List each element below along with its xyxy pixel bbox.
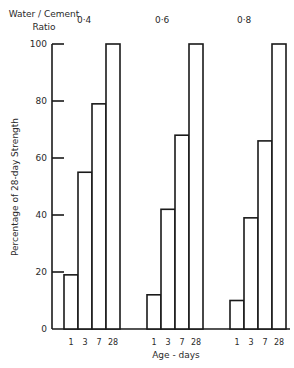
legend-title-line-2: Ratio bbox=[32, 22, 56, 32]
group-labels: 0·40·60·8 bbox=[77, 15, 252, 25]
group-label: 0·8 bbox=[237, 15, 252, 25]
x-tick-label: 7 bbox=[179, 338, 184, 347]
legend-title-line-1: Water / Cement bbox=[9, 9, 80, 19]
x-tick-label: 3 bbox=[82, 338, 87, 347]
x-tick-label: 28 bbox=[274, 338, 284, 347]
x-tick-label: 28 bbox=[191, 338, 201, 347]
bar-0.8-28d bbox=[272, 44, 286, 329]
y-axis-label: Percentage of 28-day Strength bbox=[10, 118, 20, 256]
bars bbox=[64, 44, 286, 329]
x-tick-label: 7 bbox=[262, 338, 267, 347]
bar-0.4-1d bbox=[64, 275, 78, 329]
y-tick-label: 100 bbox=[30, 39, 47, 49]
x-tick-label: 1 bbox=[68, 338, 73, 347]
y-tick-label: 80 bbox=[36, 96, 48, 106]
bar-0.6-28d bbox=[189, 44, 203, 329]
group-label: 0·6 bbox=[155, 15, 170, 25]
group-label: 0·4 bbox=[77, 15, 92, 25]
bar-0.4-7d bbox=[92, 104, 106, 329]
x-tick-labels: 137281372813728 bbox=[68, 338, 284, 347]
bar-0.8-1d bbox=[230, 301, 244, 330]
strength-bar-chart: Water / Cement Ratio 0·40·60·8 020406080… bbox=[0, 0, 294, 368]
x-tick-label: 3 bbox=[248, 338, 253, 347]
legend-title: Water / Cement Ratio bbox=[9, 9, 80, 32]
y-tick-label: 0 bbox=[41, 324, 47, 334]
y-tick-label: 20 bbox=[36, 267, 48, 277]
bar-0.6-1d bbox=[147, 295, 161, 329]
bar-0.6-3d bbox=[161, 209, 175, 329]
bar-0.4-3d bbox=[78, 172, 92, 329]
x-axis-label: Age - days bbox=[152, 350, 200, 360]
y-tick-label: 40 bbox=[36, 210, 48, 220]
bar-0.4-28d bbox=[106, 44, 120, 329]
x-tick-label: 1 bbox=[151, 338, 156, 347]
y-tick-label: 60 bbox=[36, 153, 48, 163]
x-tick-label: 1 bbox=[234, 338, 239, 347]
bar-0.8-7d bbox=[258, 141, 272, 329]
bar-0.6-7d bbox=[175, 135, 189, 329]
bar-0.8-3d bbox=[244, 218, 258, 329]
x-tick-label: 7 bbox=[96, 338, 101, 347]
x-tick-label: 3 bbox=[165, 338, 170, 347]
x-tick-label: 28 bbox=[108, 338, 118, 347]
